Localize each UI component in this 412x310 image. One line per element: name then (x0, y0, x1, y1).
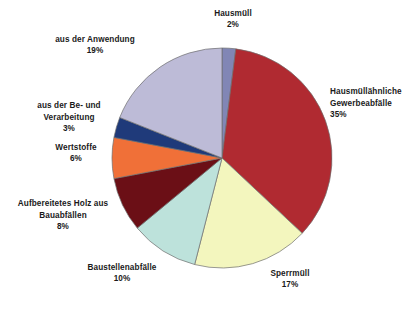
slice-label-sperrmuell: Sperrmüll 17% (248, 268, 332, 290)
slice-label-aus-der-anwendung: aus der Anwendung 19% (36, 34, 154, 56)
slice-label-gewerbe-value: 35% (330, 109, 412, 120)
slice-label-verarbeitung-value: 3% (14, 123, 124, 134)
slice-label-aufbereitetes-holz: Aufbereitetes Holz aus Bauabfällen 8% (2, 198, 124, 232)
slice-label-hausmuell-name: Hausmüll (186, 8, 280, 19)
slice-label-hausmuell: Hausmüll 2% (186, 8, 280, 30)
slice-label-aus-der-be-und-verarbeitung: aus der Be- und Verarbeitung 3% (14, 100, 124, 134)
slice-label-baustellen-value: 10% (66, 273, 178, 284)
slice-label-gewerbe-name: Hausmüllähnliche Gewerbeabfälle (330, 86, 412, 109)
slice-label-hausmuellaehnliche-gewerbeabfaelle: Hausmüllähnliche Gewerbeabfälle 35% (330, 86, 412, 120)
slice-label-verarbeitung-name: aus der Be- und Verarbeitung (14, 100, 124, 123)
slice-label-anwendung-value: 19% (36, 45, 154, 56)
slice-label-wertstoffe: Wertstoffe 6% (32, 142, 120, 164)
slice-label-sperrmuell-value: 17% (248, 279, 332, 290)
slice-label-wertstoffe-name: Wertstoffe (32, 142, 120, 153)
slice-label-wertstoffe-value: 6% (32, 153, 120, 164)
slice-label-anwendung-name: aus der Anwendung (36, 34, 154, 45)
pie-slices-group (112, 48, 332, 268)
slice-label-sperrmuell-name: Sperrmüll (248, 268, 332, 279)
slice-label-baustellen-name: Baustellenabfälle (66, 262, 178, 273)
pie-chart-figure: Hausmüll 2% Hausmüllähnliche Gewerbeabfä… (0, 0, 412, 310)
slice-label-baustellenabfaelle: Baustellenabfälle 10% (66, 262, 178, 284)
slice-label-holz-value: 8% (2, 221, 124, 232)
slice-label-hausmuell-value: 2% (186, 19, 280, 30)
slice-label-holz-name: Aufbereitetes Holz aus Bauabfällen (2, 198, 124, 221)
